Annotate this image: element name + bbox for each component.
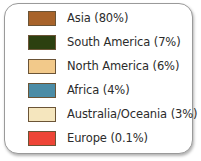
legend-list: Asia (80%) South America (7%) North Amer… [5, 4, 192, 153]
legend-item-asia[interactable]: Asia (80%) [28, 10, 128, 27]
legend-item-label: North America (6%) [67, 60, 179, 73]
legend-item-europe[interactable]: Europe (0.1%) [28, 130, 148, 147]
legend-color-swatch [28, 11, 56, 26]
legend-item-label: Africa (4%) [67, 84, 130, 97]
legend-color-swatch [28, 107, 56, 122]
legend-color-swatch [28, 131, 56, 146]
legend-item-south-america[interactable]: South America (7%) [28, 34, 181, 51]
legend-color-swatch [28, 83, 56, 98]
legend-item-label: Asia (80%) [67, 12, 128, 25]
legend-item-label: Australia/Oceania (3%) [67, 108, 197, 121]
legend-color-swatch [28, 35, 56, 50]
legend-item-north-america[interactable]: North America (6%) [28, 58, 179, 75]
legend-color-swatch [28, 59, 56, 74]
legend-item-australia-oceania[interactable]: Australia/Oceania (3%) [28, 106, 197, 123]
legend-card: Asia (80%) South America (7%) North Amer… [4, 3, 193, 154]
legend-item-africa[interactable]: Africa (4%) [28, 82, 130, 99]
legend-item-label: South America (7%) [67, 36, 181, 49]
legend-item-label: Europe (0.1%) [67, 132, 148, 145]
